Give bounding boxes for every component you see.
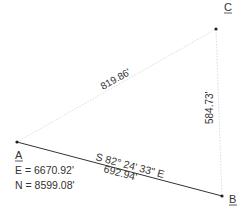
- point-c-marker: [214, 27, 217, 30]
- point-a-marker: [15, 140, 18, 143]
- point-b-label: B: [229, 193, 236, 205]
- point-c-label: C: [224, 1, 232, 13]
- line-ac: [17, 29, 216, 142]
- point-a-northing: N = 8599.08': [15, 179, 75, 191]
- point-a-easting: E = 6670.92': [15, 164, 74, 176]
- line-cb-distance: 584.73': [204, 91, 215, 124]
- point-b-marker: [220, 194, 223, 197]
- line-cb: [216, 29, 222, 196]
- point-a-label: A: [15, 149, 23, 161]
- traverse-diagram: A B C E = 6670.92' N = 8599.08' S 82° 24…: [0, 0, 250, 224]
